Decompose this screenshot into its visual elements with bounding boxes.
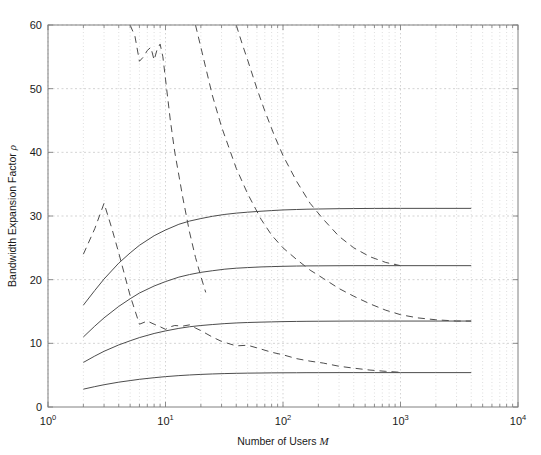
series-simulated-curve-right <box>236 25 400 266</box>
ytick-label: 50 <box>30 83 42 95</box>
ytick-label: 10 <box>30 337 42 349</box>
ytick-label: 40 <box>30 146 42 158</box>
ytick-label: 20 <box>30 274 42 286</box>
xtick-label: 102 <box>275 413 291 427</box>
series-theoretical-asymptote-3 <box>83 321 471 362</box>
series-theoretical-asymptote-1 <box>83 208 471 305</box>
series-theoretical-asymptote-2 <box>83 266 471 337</box>
y-axis-title: Bandwidth Expansion Factor ρ <box>6 145 18 287</box>
series-simulated-curve-mid <box>195 25 471 321</box>
chart-figure: 0102030405060100101102103104Number of Us… <box>0 0 541 455</box>
tick-labels: 0102030405060100101102103104 <box>30 19 526 427</box>
xtick-label: 104 <box>510 413 526 427</box>
series-theoretical-asymptote-4 <box>83 373 471 390</box>
bandwidth-expansion-chart: 0102030405060100101102103104Number of Us… <box>0 0 541 455</box>
ytick-label: 30 <box>30 210 42 222</box>
xtick-label: 101 <box>157 413 173 427</box>
ytick-label: 0 <box>36 401 42 413</box>
axis-titles: Number of Users MBandwidth Expansion Fac… <box>6 145 330 447</box>
x-axis-title: Number of Users M <box>237 435 329 447</box>
xtick-label: 100 <box>40 413 56 427</box>
data-series-group <box>83 25 471 389</box>
gridlines <box>48 25 518 407</box>
series-simulated-curve-upper <box>130 25 206 292</box>
ytick-label: 60 <box>30 19 42 31</box>
series-simulated-noisy-curve <box>83 203 400 372</box>
xtick-label: 103 <box>392 413 408 427</box>
